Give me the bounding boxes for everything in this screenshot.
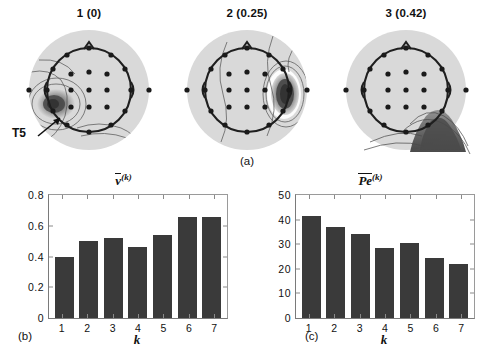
chart-panel-b: v(k) 00.20.40.60.81234567 k (b) — [0, 172, 247, 362]
x-tick-mark — [138, 314, 139, 318]
x-tick-mark — [62, 314, 63, 318]
x-tick-mark — [309, 314, 310, 318]
y-tick-mark — [470, 219, 474, 220]
bar-series-c — [296, 195, 474, 318]
y-tick-label: 30 — [278, 238, 291, 250]
topomap-3: 3 (0.42) — [331, 0, 481, 160]
topomap-3-head — [340, 24, 472, 156]
bar — [55, 257, 74, 319]
topomap-row: 1 (0) — [0, 0, 494, 168]
x-tick-mark — [360, 195, 361, 199]
bar — [79, 241, 98, 318]
x-tick-mark — [62, 195, 63, 199]
chart-c-xlabel: k — [295, 332, 473, 348]
x-tick-mark — [163, 314, 164, 318]
y-tick-label: 0.8 — [28, 189, 44, 201]
x-tick-mark — [334, 314, 335, 318]
chart-panel-c: Pe(k) 010203040501234567 k (c) — [247, 172, 494, 362]
bar — [104, 238, 123, 318]
x-tick-mark — [410, 195, 411, 199]
y-tick-mark — [296, 268, 300, 269]
y-tick-label: 0.4 — [28, 251, 44, 263]
y-tick-mark — [49, 256, 53, 257]
bar — [400, 243, 419, 318]
x-tick-mark — [334, 195, 335, 199]
y-tick-label: 0 — [285, 312, 291, 324]
bar-series-b — [49, 195, 227, 318]
y-tick-mark — [223, 225, 227, 226]
t5-label: T5 — [12, 126, 26, 140]
y-tick-mark — [470, 268, 474, 269]
caption-b: (b) — [18, 330, 32, 342]
bar — [351, 234, 370, 318]
bar — [302, 216, 321, 318]
x-tick-mark — [436, 314, 437, 318]
topomap-2: 2 (0.25) — [172, 0, 322, 160]
x-tick-mark — [87, 314, 88, 318]
y-tick-mark — [470, 293, 474, 294]
y-tick-label: 10 — [278, 287, 291, 299]
y-tick-label: 50 — [278, 189, 291, 201]
y-tick-mark — [470, 244, 474, 245]
x-tick-mark — [189, 195, 190, 199]
x-tick-mark — [436, 195, 437, 199]
x-tick-mark — [309, 195, 310, 199]
y-tick-mark — [49, 225, 53, 226]
x-tick-mark — [461, 314, 462, 318]
bar — [326, 227, 345, 318]
chart-c-title-symbol: Pe — [358, 173, 372, 188]
bar — [449, 264, 468, 318]
x-tick-mark — [461, 195, 462, 199]
y-tick-mark — [296, 219, 300, 220]
y-tick-mark — [296, 244, 300, 245]
x-tick-mark — [189, 314, 190, 318]
bar — [178, 217, 197, 318]
x-tick-mark — [214, 314, 215, 318]
bar — [128, 247, 147, 318]
bar — [425, 258, 444, 318]
y-tick-mark — [223, 256, 227, 257]
x-tick-mark — [410, 314, 411, 318]
y-tick-mark — [223, 287, 227, 288]
x-tick-mark — [87, 195, 88, 199]
x-tick-mark — [113, 195, 114, 199]
bar — [202, 217, 221, 318]
x-tick-mark — [113, 314, 114, 318]
x-tick-mark — [138, 195, 139, 199]
chart-c-title-superscript: (k) — [372, 172, 383, 182]
plot-area-b: 00.20.40.60.81234567 — [48, 194, 228, 319]
topomap-2-head — [181, 24, 313, 156]
chart-b-xlabel: k — [48, 332, 226, 348]
bar — [375, 248, 394, 318]
y-tick-label: 40 — [278, 214, 291, 226]
caption-a: (a) — [0, 155, 494, 167]
x-tick-mark — [360, 314, 361, 318]
chart-b-title-superscript: (k) — [121, 172, 132, 182]
x-tick-mark — [163, 195, 164, 199]
topomap-2-title: 2 (0.25) — [172, 7, 322, 19]
arrow-icon — [36, 112, 68, 140]
bar — [153, 235, 172, 318]
caption-c: (c) — [305, 330, 318, 342]
topomap-3-title: 3 (0.42) — [331, 7, 481, 19]
y-tick-label: 0.6 — [28, 220, 44, 232]
x-tick-mark — [214, 195, 215, 199]
y-tick-mark — [296, 293, 300, 294]
y-tick-label: 0 — [38, 312, 44, 324]
x-tick-mark — [385, 195, 386, 199]
plot-area-c: 010203040501234567 — [295, 194, 475, 319]
y-tick-mark — [49, 287, 53, 288]
y-tick-label: 20 — [278, 263, 291, 275]
y-tick-label: 0.2 — [28, 281, 44, 293]
topomap-1-title: 1 (0) — [14, 7, 164, 19]
x-tick-mark — [385, 314, 386, 318]
